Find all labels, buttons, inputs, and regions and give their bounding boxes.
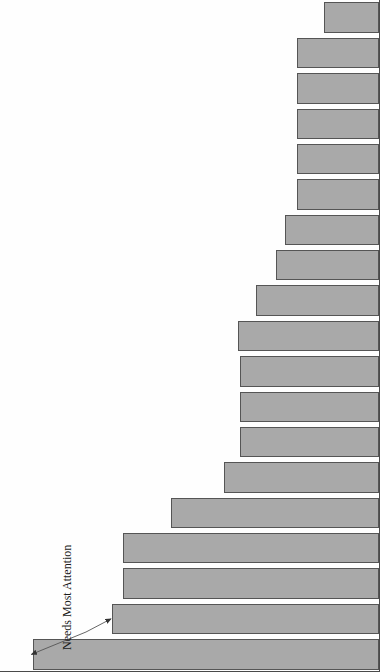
bar (297, 73, 379, 103)
rotated-figure: 050100150200250300 Chip Braker Angle Gro… (0, 0, 380, 672)
bar (33, 639, 380, 669)
bar (276, 250, 379, 280)
bar (224, 462, 379, 492)
chart-page: 050100150200250300 Chip Braker Angle Gro… (0, 0, 380, 672)
bar (123, 533, 379, 563)
bar (256, 285, 379, 315)
plot-area: 050100150200250300 Chip Braker Angle Gro… (0, 0, 380, 672)
bar (171, 498, 379, 528)
bar (297, 109, 379, 139)
bar (238, 321, 379, 351)
bar (285, 215, 380, 245)
bar (297, 179, 379, 209)
bar (297, 38, 379, 68)
bar (123, 568, 379, 598)
bar (112, 604, 379, 634)
annotation-arrow (86, 619, 111, 632)
bar (240, 427, 379, 457)
bar (240, 392, 379, 422)
annotation-needs-most-attention: Needs Most Attention (60, 545, 75, 650)
bar (324, 3, 379, 33)
bar (240, 356, 379, 386)
bar (297, 144, 379, 174)
